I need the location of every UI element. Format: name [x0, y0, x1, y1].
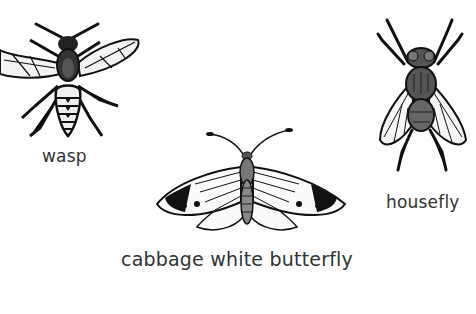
wasp-label: wasp	[42, 146, 87, 166]
housefly-label: housefly	[386, 192, 460, 212]
butterfly-label: cabbage white butterfly	[121, 248, 353, 270]
housefly-illustration	[372, 12, 476, 177]
butterfly-illustration	[155, 122, 347, 240]
wasp-illustration	[0, 18, 145, 143]
